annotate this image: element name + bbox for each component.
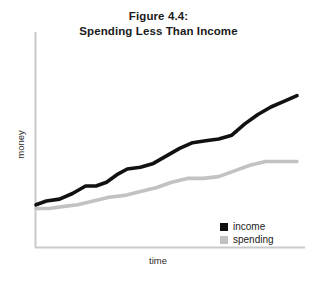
legend-swatch-spending-icon	[220, 236, 228, 244]
spending-line-series	[36, 162, 297, 209]
chart-legend: income spending	[220, 221, 274, 247]
legend-item-income: income	[220, 221, 274, 233]
income-line-series	[36, 96, 297, 205]
figure-container: Figure 4.4: Spending Less Than Income mo…	[0, 0, 317, 283]
legend-item-spending: spending	[220, 234, 274, 246]
legend-label-income: income	[233, 221, 265, 233]
y-axis-label: money	[15, 120, 26, 170]
legend-label-spending: spending	[233, 234, 274, 246]
x-axis-label: time	[108, 255, 208, 266]
legend-swatch-income-icon	[220, 223, 228, 231]
